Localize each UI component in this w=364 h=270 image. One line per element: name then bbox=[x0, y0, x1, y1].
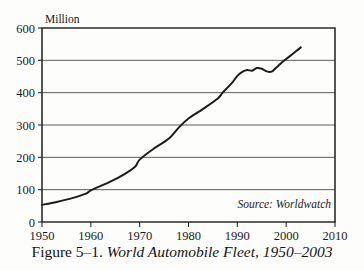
grid-lines bbox=[42, 60, 335, 189]
x-tick-label: 2010 bbox=[323, 229, 348, 243]
x-tick-label: 1980 bbox=[176, 229, 201, 243]
caption-title: World Automobile Fleet, 1950–2003 bbox=[107, 243, 333, 260]
x-tick-label: 1990 bbox=[225, 229, 250, 243]
y-tick-label: 600 bbox=[16, 22, 35, 36]
line-chart: 0100200300400500600 19501960197019801990… bbox=[0, 0, 364, 270]
x-tick-label: 1960 bbox=[78, 229, 103, 243]
figure-caption: Figure 5–1. World Automobile Fleet, 1950… bbox=[0, 243, 364, 261]
y-tick-label: 0 bbox=[29, 216, 35, 230]
figure-container: 0100200300400500600 19501960197019801990… bbox=[0, 0, 364, 270]
y-tick-label: 400 bbox=[16, 86, 35, 100]
y-axis-tick-labels: 0100200300400500600 bbox=[16, 22, 35, 230]
y-tick-label: 500 bbox=[16, 54, 35, 68]
y-tick-label: 300 bbox=[16, 119, 35, 133]
x-tick-label: 1970 bbox=[127, 229, 152, 243]
x-axis-tick-labels: 1950196019701980199020002010 bbox=[30, 229, 348, 243]
caption-prefix: Figure 5–1. bbox=[32, 243, 103, 260]
source-note: Source: Worldwatch bbox=[238, 198, 332, 210]
data-series-line bbox=[42, 47, 301, 204]
y-axis-unit-label: Million bbox=[45, 13, 80, 25]
x-tick-label: 2000 bbox=[274, 229, 299, 243]
y-tick-label: 200 bbox=[16, 151, 35, 165]
y-tick-label: 100 bbox=[16, 183, 35, 197]
x-tick-label: 1950 bbox=[30, 229, 55, 243]
